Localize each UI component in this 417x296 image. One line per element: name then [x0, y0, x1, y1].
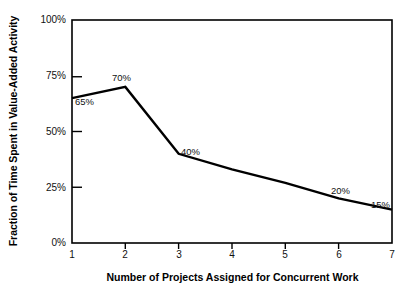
- x-tick-label-7: 7: [382, 249, 402, 260]
- point-label-65: 65%: [75, 96, 94, 107]
- plot-frame: [72, 20, 392, 243]
- x-tick-label-2: 2: [115, 249, 135, 260]
- point-label-15: 15%: [371, 199, 390, 210]
- x-tick-label-6: 6: [329, 249, 349, 260]
- x-tick-label-1: 1: [62, 249, 82, 260]
- point-label-40: 40%: [181, 146, 200, 157]
- chart-figure: Fraction of Time Spent in Value-Added Ac…: [0, 0, 417, 296]
- point-label-70: 70%: [112, 72, 131, 83]
- x-tick-label-4: 4: [222, 249, 242, 260]
- point-label-20: 20%: [331, 185, 350, 196]
- x-tick-label-3: 3: [169, 249, 189, 260]
- x-tick-label-5: 5: [275, 249, 295, 260]
- x-axis-title: Number of Projects Assigned for Concurre…: [72, 271, 393, 283]
